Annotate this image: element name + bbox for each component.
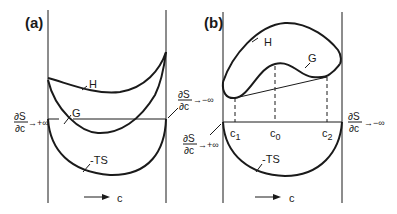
panel-b-H-curve (223, 23, 341, 82)
panel-a-axis-arrow-icon (102, 194, 110, 200)
panel-b-G-curve (223, 63, 340, 98)
panel-a-label: (a) (25, 14, 43, 31)
panel-b-left-limit-num: ∂S (183, 133, 195, 144)
panel-a: (a) H G -TS ∂S ∂c →+∞ c (14, 10, 166, 204)
panel-b-axis-arrow-icon (273, 194, 281, 200)
panel-a-right-limit-leader (168, 108, 178, 118)
panel-a-H-curve (48, 52, 166, 93)
panel-a-TS-curve (48, 119, 166, 175)
panel-a-right-limit-num: ∂S (178, 89, 190, 100)
panel-b-axis-label: c (289, 192, 295, 204)
panel-a-left-limit-num: ∂S (14, 111, 26, 122)
panel-b: (b) H G -TS c1 c0 c2 ∂S ∂c →+∞ (183, 12, 385, 204)
panel-b-right-limit-num: ∂S (348, 111, 360, 122)
panel-b-TS-label: -TS (262, 153, 280, 165)
panel-b-label: (b) (204, 14, 223, 31)
panel-b-left-limit-den: ∂c (184, 145, 194, 156)
panel-b-right-limit-den: ∂c (349, 123, 359, 134)
panel-b-G-label: G (308, 52, 317, 64)
panel-a-right-limit-den: ∂c (179, 101, 189, 112)
panel-a-right-limit-arrow: →−∞ (193, 95, 214, 105)
panel-b-right-limit-arrow: →−∞ (364, 118, 385, 128)
panel-a-G-label: G (72, 107, 81, 119)
panel-a-right-limit: ∂S ∂c →−∞ (168, 89, 214, 118)
panel-a-TS-label: -TS (90, 154, 108, 166)
panel-b-H-label: H (264, 36, 272, 48)
panel-a-left-limit-arrow: →+∞ (28, 118, 49, 128)
thermodynamic-diagram: (a) H G -TS ∂S ∂c →+∞ c ∂S ∂c →−∞ (0, 0, 397, 214)
panel-b-c0-label: c0 (270, 127, 281, 142)
panel-b-left-limit-leader (210, 124, 221, 135)
panel-a-left-limit-den: ∂c (15, 123, 25, 134)
panel-b-c2-label: c2 (322, 127, 333, 142)
panel-b-c1-label: c1 (230, 127, 241, 142)
panel-a-axis-label: c (117, 192, 123, 204)
panel-b-left-limit-arrow: →+∞ (198, 140, 219, 150)
panel-a-H-label: H (89, 78, 97, 90)
